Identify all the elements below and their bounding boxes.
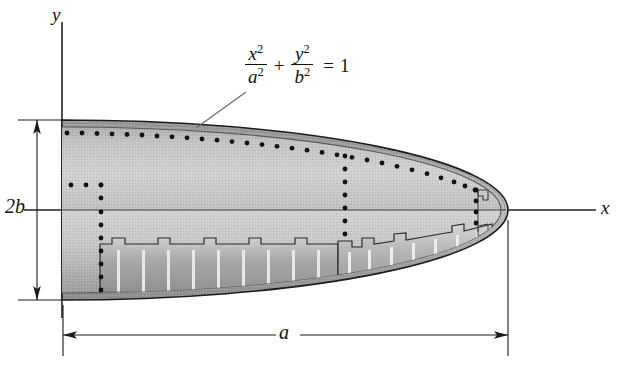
equation-x-symbol: x bbox=[249, 43, 257, 64]
equation-right-hand-side: 1 bbox=[340, 56, 350, 75]
equation-b-denominator: b2 bbox=[291, 64, 313, 86]
equation-leader-line bbox=[196, 92, 246, 128]
x-axis-label: x bbox=[601, 197, 609, 219]
ellipse-equation: x2 a2 + y2 b2 = 1 bbox=[244, 44, 349, 86]
equation-equals-sign: = bbox=[323, 56, 334, 75]
equation-x-numerator: x2 bbox=[246, 44, 267, 64]
left-vertical-rivet-column bbox=[99, 183, 104, 293]
dimension-label-a: a bbox=[279, 321, 289, 344]
equation-b-denominator-exponent: 2 bbox=[304, 65, 310, 79]
y-axis-label: y bbox=[52, 4, 60, 26]
equation-x-numerator-exponent: 2 bbox=[257, 42, 263, 56]
equation-b-symbol: b bbox=[294, 66, 304, 87]
equation-fraction-y: y2 b2 bbox=[291, 44, 313, 86]
equation-fraction-x: x2 a2 bbox=[245, 44, 267, 86]
equation-y-numerator: y2 bbox=[292, 44, 313, 64]
equation-plus-operator: + bbox=[274, 56, 285, 75]
dimension-label-2b: 2b bbox=[5, 195, 25, 218]
equation-a-symbol: a bbox=[248, 66, 258, 87]
equation-a-denominator-exponent: 2 bbox=[258, 65, 264, 79]
equation-a-denominator: a2 bbox=[245, 64, 267, 86]
equation-y-numerator-exponent: 2 bbox=[303, 42, 309, 56]
figure-canvas: y x 2b a x2 a2 + y2 b2 = 1 bbox=[0, 0, 627, 366]
